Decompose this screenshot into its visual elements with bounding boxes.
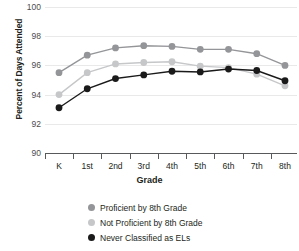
data-point bbox=[169, 43, 176, 50]
data-point bbox=[140, 42, 147, 49]
x-tick-label: 7th bbox=[251, 161, 263, 171]
x-axis-tick bbox=[158, 153, 159, 159]
legend-marker-icon bbox=[88, 234, 95, 241]
data-point bbox=[112, 61, 119, 68]
y-tick-label: 90 bbox=[32, 148, 41, 158]
x-axis-tick bbox=[186, 153, 187, 159]
x-tick-label: 4th bbox=[166, 161, 178, 171]
y-tick-label: 100 bbox=[27, 2, 41, 12]
series-line bbox=[59, 62, 285, 95]
series-line bbox=[59, 69, 285, 108]
data-point bbox=[84, 52, 91, 59]
y-axis-title: Percent of Days Attended bbox=[14, 0, 24, 144]
data-point bbox=[253, 50, 260, 57]
x-axis-line bbox=[45, 153, 297, 154]
legend-item[interactable]: Proficient by 8th Grade bbox=[88, 200, 288, 215]
data-point bbox=[112, 75, 119, 82]
legend-marker-icon bbox=[88, 204, 95, 211]
data-point bbox=[253, 67, 260, 74]
data-point bbox=[197, 69, 204, 76]
data-point bbox=[140, 71, 147, 78]
x-axis-tick bbox=[130, 153, 131, 159]
x-axis-title: Grade bbox=[0, 175, 299, 185]
chart-legend: Proficient by 8th GradeNot Proficient by… bbox=[88, 200, 288, 245]
line-chart: Percent of Days Attended 9092949698100 K… bbox=[0, 0, 299, 251]
x-axis-tick bbox=[271, 153, 272, 159]
x-axis-tick bbox=[101, 153, 102, 159]
data-point bbox=[197, 63, 204, 70]
data-point bbox=[282, 62, 289, 69]
data-point bbox=[169, 58, 176, 65]
data-point bbox=[112, 44, 119, 51]
y-tick-label: 94 bbox=[32, 90, 41, 100]
y-tick-label: 96 bbox=[32, 60, 41, 70]
plot-area: 9092949698100 K1st2nd3rd4th5th6th7th8th bbox=[45, 5, 297, 155]
x-tick-label: 6th bbox=[223, 161, 235, 171]
legend-item[interactable]: Never Classified as ELs bbox=[88, 230, 288, 245]
y-tick-label: 98 bbox=[32, 31, 41, 41]
x-axis-tick bbox=[243, 153, 244, 159]
data-point bbox=[225, 66, 232, 73]
series-layer bbox=[45, 5, 297, 155]
x-tick-label: 8th bbox=[279, 161, 291, 171]
y-tick-label: 92 bbox=[32, 119, 41, 129]
series-1 bbox=[56, 58, 289, 98]
data-point bbox=[84, 69, 91, 76]
legend-marker-icon bbox=[88, 219, 95, 226]
x-axis-tick bbox=[45, 153, 46, 159]
data-point bbox=[56, 104, 63, 111]
x-tick-label: K bbox=[56, 161, 62, 171]
data-point bbox=[56, 91, 63, 98]
x-tick-label: 3rd bbox=[138, 161, 150, 171]
legend-item[interactable]: Not Proficient by 8th Grade bbox=[88, 215, 288, 230]
data-point bbox=[169, 68, 176, 75]
legend-label: Not Proficient by 8th Grade bbox=[100, 218, 203, 228]
x-tick-label: 5th bbox=[194, 161, 206, 171]
x-axis-tick bbox=[73, 153, 74, 159]
data-point bbox=[197, 46, 204, 53]
data-point bbox=[225, 46, 232, 53]
x-tick-label: 1st bbox=[82, 161, 93, 171]
x-tick-label: 2nd bbox=[108, 161, 122, 171]
data-point bbox=[56, 69, 63, 76]
data-point bbox=[282, 77, 289, 84]
data-point bbox=[140, 59, 147, 66]
legend-label: Never Classified as ELs bbox=[100, 233, 190, 243]
x-axis-tick bbox=[214, 153, 215, 159]
data-point bbox=[84, 85, 91, 92]
legend-label: Proficient by 8th Grade bbox=[100, 203, 187, 213]
